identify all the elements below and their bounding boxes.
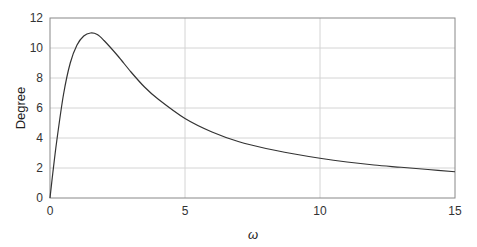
x-tick-label: 5: [182, 204, 189, 218]
y-tick-label: 10: [30, 41, 44, 55]
x-axis-ticks: 051015: [47, 204, 462, 218]
y-tick-label: 12: [30, 11, 44, 25]
x-axis-label: ω: [248, 227, 258, 242]
data-line: [50, 33, 455, 198]
y-axis-ticks: 024681012: [30, 11, 44, 205]
x-tick-label: 0: [47, 204, 54, 218]
grid-lines: [50, 18, 455, 198]
y-axis-label: Degree: [13, 87, 28, 130]
chart: 024681012 051015 Degree ω: [0, 0, 477, 247]
y-tick-label: 4: [36, 131, 43, 145]
x-tick-label: 10: [313, 204, 327, 218]
y-tick-label: 8: [36, 71, 43, 85]
y-tick-label: 0: [36, 191, 43, 205]
y-tick-label: 6: [36, 101, 43, 115]
y-tick-label: 2: [36, 161, 43, 175]
x-tick-label: 15: [448, 204, 462, 218]
